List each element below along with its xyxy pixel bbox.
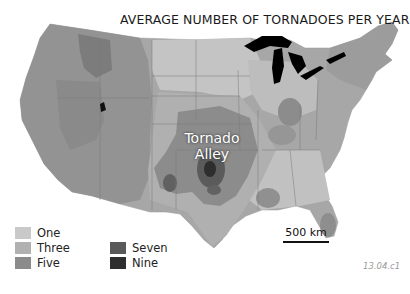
tornado-alley-label-line2: Alley	[177, 146, 247, 162]
zone-five-mississippi	[256, 188, 280, 208]
map-title: AVERAGE NUMBER OF TORNADOES PER YEAR	[120, 12, 409, 27]
scale-bar-line	[283, 241, 329, 243]
legend-swatch-five	[15, 257, 31, 269]
legend-item-seven: Seven	[110, 241, 168, 255]
tornado-alley-label-line1: Tornado	[177, 130, 247, 146]
legend-item-one: One	[15, 226, 60, 240]
legend-item-three: Three	[15, 241, 70, 255]
legend-label-seven: Seven	[132, 241, 168, 255]
legend-swatch-three	[15, 242, 31, 254]
legend-swatch-one	[15, 227, 31, 239]
tornado-alley-label: Tornado Alley	[177, 130, 247, 162]
legend-swatch-nine	[110, 257, 126, 269]
scale-bar: 500 km	[282, 226, 330, 243]
zone-five-illinois	[268, 125, 296, 145]
legend-item-nine: Nine	[110, 256, 158, 270]
scale-bar-label: 500 km	[282, 226, 330, 239]
legend-label-three: Three	[37, 241, 70, 255]
zone-seven-texas-panhandle	[163, 174, 177, 192]
legend-label-one: One	[37, 226, 60, 240]
legend-item-five: Five	[15, 256, 60, 270]
figure-id: 13.04.c1	[363, 261, 400, 271]
legend-swatch-seven	[110, 242, 126, 254]
zone-seven-north-texas	[207, 185, 221, 195]
zone-five-iowa	[278, 98, 302, 126]
zone-nine-core	[204, 161, 216, 177]
legend-label-five: Five	[37, 256, 60, 270]
legend-label-nine: Nine	[132, 256, 158, 270]
